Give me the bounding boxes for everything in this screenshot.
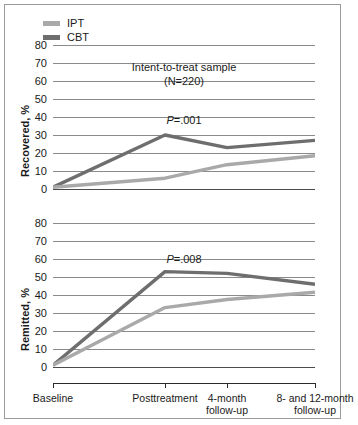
x-tick-label-line1: Baseline xyxy=(10,392,96,404)
gridline xyxy=(53,189,315,190)
chart-remitted: Remitted, % 01020304050607080 P=.008 xyxy=(5,223,342,383)
p-value-remitted: P=.008 xyxy=(53,253,315,265)
x-tick xyxy=(315,383,316,388)
y-tick-label: 0 xyxy=(5,361,47,373)
y-tick-label: 50 xyxy=(5,271,47,283)
p-symbol-recovered: P xyxy=(166,114,173,126)
y-tick-label: 40 xyxy=(5,111,47,123)
y-tick-label: 0 xyxy=(5,183,47,195)
chart-recovered: Recovered, % 01020304050607080 Intent-to… xyxy=(5,45,342,205)
y-tick-label: 80 xyxy=(5,217,47,229)
y-tick-label: 60 xyxy=(5,253,47,265)
y-tick-label: 10 xyxy=(5,343,47,355)
x-tick-label: Baseline xyxy=(10,392,96,404)
y-tick-label: 10 xyxy=(5,165,47,177)
y-tick-label: 80 xyxy=(5,39,47,51)
legend-swatch-ipt xyxy=(43,21,60,26)
chart-legend: IPT CBT xyxy=(43,17,89,45)
x-tick-label: 4-monthfollow-up xyxy=(184,392,270,416)
x-tick xyxy=(53,383,54,388)
legend-label-cbt: CBT xyxy=(67,32,89,43)
series-line-ipt xyxy=(53,292,315,365)
legend-label-ipt: IPT xyxy=(67,18,84,29)
y-tick-label: 60 xyxy=(5,75,47,87)
plot-area-remitted xyxy=(53,223,315,367)
x-tick xyxy=(165,383,166,388)
y-tick-label: 40 xyxy=(5,289,47,301)
legend-item-cbt: CBT xyxy=(43,31,89,43)
legend-item-ipt: IPT xyxy=(43,17,89,29)
y-tick-label: 20 xyxy=(5,325,47,337)
x-tick-label: 8- and 12-monthfollow-up xyxy=(272,392,358,416)
p-value-recovered: P=.001 xyxy=(53,114,315,126)
p-symbol-remitted: P xyxy=(166,253,173,265)
chart-subtitle-line2: (N=220) xyxy=(53,75,315,87)
gridline xyxy=(53,367,315,368)
p-number-remitted: =.008 xyxy=(174,253,202,265)
y-tick-label: 70 xyxy=(5,57,47,69)
x-tick-label-line2: follow-up xyxy=(272,404,358,416)
y-tick-label: 30 xyxy=(5,307,47,319)
chart-subtitle-line1: Intent-to-treat sample xyxy=(53,61,315,73)
x-tick-label-line2: follow-up xyxy=(184,404,270,416)
y-tick-label: 50 xyxy=(5,93,47,105)
series-line-cbt xyxy=(53,272,315,366)
series-lines-remitted xyxy=(53,223,315,367)
y-tick-label: 20 xyxy=(5,147,47,159)
p-number-recovered: =.001 xyxy=(174,114,202,126)
y-tick-label: 70 xyxy=(5,235,47,247)
x-tick-label-line1: 8- and 12-month xyxy=(272,392,358,404)
series-line-ipt xyxy=(53,156,315,188)
figure-panel: IPT CBT Recovered, % 01020304050607080 I… xyxy=(4,4,341,419)
x-tick-label-line1: 4-month xyxy=(184,392,270,404)
y-tick-label: 30 xyxy=(5,129,47,141)
x-tick xyxy=(227,383,228,388)
x-axis-line xyxy=(53,383,315,384)
